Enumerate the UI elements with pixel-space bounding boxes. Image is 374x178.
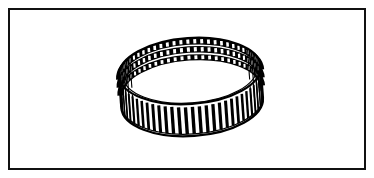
ring-tooth xyxy=(159,105,161,132)
figure-root: Toothed ring gear perspective line drawi… xyxy=(0,0,374,178)
ring-tooth xyxy=(192,107,194,134)
ring-tooth xyxy=(206,105,208,132)
ring-tooth xyxy=(237,96,239,123)
ring-tooth xyxy=(231,99,233,126)
ring-tooth xyxy=(153,104,155,131)
ring-tooth xyxy=(147,103,149,130)
ring-tooth xyxy=(185,107,187,134)
ring-illustration xyxy=(0,0,374,178)
ring-tooth xyxy=(179,107,181,134)
border-frame xyxy=(0,0,374,178)
ring-tooth xyxy=(165,106,167,133)
border-frame-rect xyxy=(9,9,365,169)
ring-tooth xyxy=(172,107,174,134)
ring-tooth xyxy=(226,101,228,128)
ring-tooth xyxy=(199,106,201,133)
ring-tooth xyxy=(213,104,215,131)
ring-tooth xyxy=(219,103,221,130)
